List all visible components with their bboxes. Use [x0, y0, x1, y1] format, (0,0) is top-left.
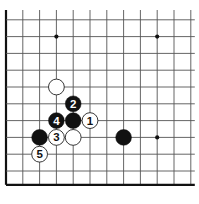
star-point-icon [54, 35, 58, 39]
white-stone-icon [49, 79, 65, 95]
white-stone [65, 130, 81, 146]
go-board: 24135 [0, 0, 199, 204]
black-stone-move-4: 4 [49, 113, 65, 129]
black-stone [32, 130, 48, 146]
star-point-icon [155, 135, 159, 139]
black-stone-icon [65, 113, 81, 129]
black-stone-icon [32, 130, 48, 146]
white-stone-icon [65, 130, 81, 146]
move-number-label: 2 [70, 98, 76, 110]
star-point-icon [155, 35, 159, 39]
white-stone-move-5: 5 [32, 146, 48, 162]
move-number-label: 4 [53, 115, 60, 127]
move-number-label: 3 [53, 131, 59, 143]
black-stone-move-2: 2 [65, 96, 81, 112]
white-stone-move-3: 3 [49, 130, 65, 146]
black-stone-icon [116, 130, 132, 146]
move-number-label: 5 [36, 148, 43, 160]
black-stone [116, 130, 132, 146]
white-stone [49, 79, 65, 95]
move-number-label: 1 [87, 115, 94, 127]
white-stone-move-1: 1 [82, 113, 98, 129]
black-stone [65, 113, 81, 129]
